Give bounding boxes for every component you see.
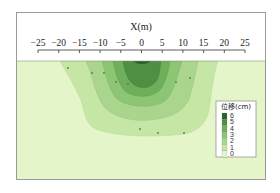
legend-swatch — [222, 151, 227, 157]
legend-swatch — [222, 113, 227, 119]
contour-chart: X(m) −25−20−15−10−50510152025 — [0, 0, 280, 193]
legend-swatch — [222, 126, 227, 132]
x-tick-label: 10 — [178, 38, 188, 48]
x-axis-title: X(m) — [130, 21, 152, 33]
legend-swatch — [222, 138, 227, 144]
x-axis: X(m) −25−20−15−10−50510152025 — [31, 21, 250, 53]
legend-title: 位移(cm) — [221, 102, 251, 111]
x-tick-label: 5 — [160, 38, 165, 48]
legend-swatches — [222, 113, 227, 157]
legend: 位移(cm) 6543210 — [216, 101, 256, 157]
x-tick-label: −5 — [116, 38, 126, 48]
x-tick-label: −15 — [72, 38, 87, 48]
x-tick-label: 0 — [139, 38, 144, 48]
x-axis-ticks: −25−20−15−10−50510152025 — [31, 38, 250, 53]
legend-label: 0 — [230, 150, 234, 157]
x-tick-label: 15 — [199, 38, 209, 48]
legend-swatch — [222, 132, 227, 138]
x-tick-label: −25 — [31, 38, 46, 48]
x-tick-label: 25 — [240, 38, 250, 48]
legend-swatch — [222, 119, 227, 125]
x-tick-label: −10 — [93, 38, 108, 48]
legend-labels: 6543210 — [230, 112, 234, 157]
x-tick-label: −20 — [51, 38, 66, 48]
legend-swatch — [222, 145, 227, 151]
x-tick-label: 20 — [220, 38, 230, 48]
